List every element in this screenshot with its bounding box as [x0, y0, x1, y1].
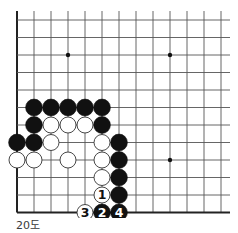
diagram-caption: 20도: [16, 219, 40, 232]
black-stone-icon: [94, 99, 111, 116]
white-stone-icon: [60, 152, 76, 168]
black-stone-icon: [26, 99, 43, 116]
black-stone-icon: [111, 134, 128, 151]
white-stone-icon: [43, 135, 59, 151]
move-number-label: 1: [98, 187, 107, 202]
white-stone-icon: [77, 117, 93, 133]
white-stone-icon: [26, 152, 42, 168]
go-board: 1234: [0, 0, 238, 218]
black-stone-icon: [26, 117, 43, 134]
white-stone-icon: [43, 117, 59, 133]
move-number-label: 2: [98, 205, 107, 218]
move-1-white-stone: 1: [94, 187, 110, 203]
star-point-icon: [66, 53, 70, 57]
white-stone-icon: [94, 170, 110, 186]
black-stone-icon: [26, 134, 43, 151]
black-stone-icon: [111, 187, 128, 204]
star-point-icon: [168, 158, 172, 162]
white-stone-icon: [94, 135, 110, 151]
white-stone-icon: [9, 152, 25, 168]
move-2-black-stone: 2: [94, 204, 111, 218]
black-stone-icon: [111, 152, 128, 169]
star-point-icon: [168, 53, 172, 57]
black-stone-icon: [94, 117, 111, 134]
move-number-label: 3: [81, 205, 90, 218]
move-4-black-stone: 4: [111, 204, 128, 218]
move-3-white-stone: 3: [77, 205, 93, 219]
black-stone-icon: [60, 99, 77, 116]
black-stone-icon: [77, 99, 94, 116]
black-stone-icon: [9, 134, 26, 151]
black-stone-icon: [111, 169, 128, 186]
white-stone-icon: [94, 152, 110, 168]
black-stone-icon: [43, 99, 60, 116]
move-number-label: 4: [115, 205, 124, 218]
white-stone-icon: [60, 117, 76, 133]
